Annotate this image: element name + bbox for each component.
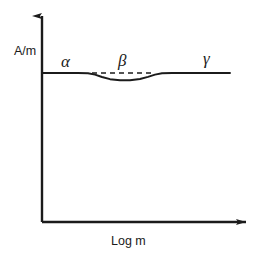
labels-group: A/m Log m α β γ [14, 44, 211, 248]
region-label-alpha: α [61, 52, 71, 71]
curve-group [42, 73, 230, 80]
magnetization-curve [42, 73, 230, 80]
axes-group [42, 16, 246, 222]
region-label-beta: β [117, 51, 127, 70]
region-label-gamma: γ [203, 49, 211, 68]
x-axis-label: Log m [111, 234, 146, 248]
plot-canvas: A/m Log m α β γ [0, 0, 265, 253]
figure-container: A/m Log m α β γ [0, 0, 265, 253]
y-axis-label: A/m [14, 44, 36, 58]
